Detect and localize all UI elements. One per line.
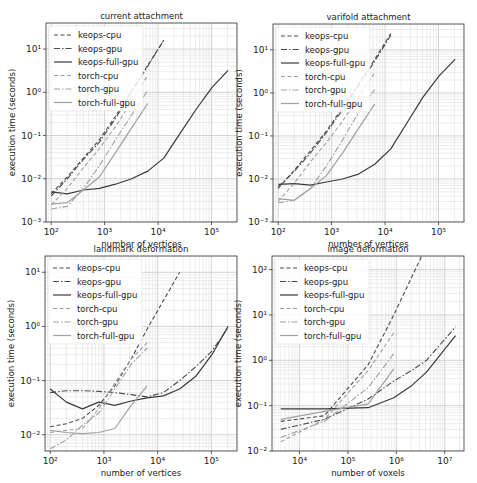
legend: keops-cpukeops-gpukeops-full-gputorch-cp… <box>49 26 143 111</box>
subplot-image-deformation: 10⁴10⁵10⁶10⁷10⁻²10⁻¹10⁰10¹10²image defor… <box>233 244 464 478</box>
legend-label: torch-full-gpu <box>77 331 134 341</box>
y-tick-label: 10¹ <box>25 267 40 277</box>
x-tick-label: 10⁴ <box>378 227 393 237</box>
y-tick-label: 10⁰ <box>252 355 267 365</box>
y-tick-label: 10⁻² <box>20 430 40 440</box>
y-axis-label: execution time (seconds) <box>7 69 17 176</box>
legend-label: torch-full-gpu <box>78 98 135 108</box>
legend: keops-cpukeops-gpukeops-full-gputorch-cp… <box>275 259 369 344</box>
y-tick-label: 10⁻² <box>248 174 268 184</box>
x-tick-label: 10³ <box>324 227 339 237</box>
subplot-title: current attachment <box>100 11 183 21</box>
legend-label: keops-cpu <box>78 30 121 40</box>
y-axis-label: execution time (seconds) <box>233 300 243 407</box>
y-tick-label: 10¹ <box>26 44 41 54</box>
x-tick-label: 10² <box>43 456 58 466</box>
x-tick-label: 10⁵ <box>340 456 355 466</box>
legend-label: torch-gpu <box>304 317 345 327</box>
y-tick-label: 10⁻³ <box>21 217 41 227</box>
figure: 10²10³10⁴10⁵10⁻³10⁻²10⁻¹10⁰10¹current at… <box>0 0 477 483</box>
x-tick-label: 10² <box>271 227 286 237</box>
x-axis-label: number of vertices <box>101 468 182 478</box>
legend-label: keops-cpu <box>305 31 348 41</box>
legend-label: keops-cpu <box>77 263 120 273</box>
subplot-varifold-attachment: 10²10³10⁴10⁵10⁻³10⁻²10⁻¹10⁰10¹varifold a… <box>234 12 464 249</box>
y-tick-label: 10⁰ <box>253 88 268 98</box>
legend-label: keops-full-gpu <box>305 58 365 68</box>
y-tick-label: 10⁰ <box>25 321 40 331</box>
x-tick-label: 10⁴ <box>150 456 165 466</box>
x-tick-label: 10⁵ <box>431 227 446 237</box>
legend-label: torch-cpu <box>305 72 345 82</box>
y-tick-label: 10⁻² <box>21 174 41 184</box>
legend: keops-cpukeops-gpukeops-full-gputorch-cp… <box>276 27 370 112</box>
legend-label: keops-full-gpu <box>304 290 364 300</box>
y-tick-label: 10¹ <box>252 310 267 320</box>
legend-label: torch-full-gpu <box>305 99 362 109</box>
y-axis-label: execution time (seconds) <box>6 300 16 407</box>
y-axis-label: execution time (seconds) <box>234 69 244 176</box>
x-tick-label: 10⁷ <box>437 456 452 466</box>
y-tick-label: 10² <box>252 265 267 275</box>
subplot-title: landmark deformation <box>94 244 189 254</box>
legend: keops-cpukeops-gpukeops-full-gputorch-cp… <box>48 259 142 344</box>
legend-label: keops-full-gpu <box>77 290 137 300</box>
legend-label: torch-gpu <box>78 84 119 94</box>
subplot-current-attachment: 10²10³10⁴10⁵10⁻³10⁻²10⁻¹10⁰10¹current at… <box>7 11 237 249</box>
x-tick-label: 10³ <box>96 456 111 466</box>
legend-label: keops-cpu <box>304 263 347 273</box>
legend-label: keops-gpu <box>78 44 122 54</box>
legend-label: torch-gpu <box>305 85 346 95</box>
x-tick-label: 10³ <box>97 227 112 237</box>
x-tick-label: 10⁵ <box>204 227 219 237</box>
subplot-landmark-deformation: 10²10³10⁴10⁵10⁻²10⁻¹10⁰10¹landmark defor… <box>6 244 237 478</box>
y-tick-label: 10⁻¹ <box>20 376 40 386</box>
legend-label: keops-full-gpu <box>78 57 138 67</box>
x-tick-label: 10² <box>44 227 59 237</box>
x-axis-label: number of voxels <box>331 468 405 478</box>
legend-label: keops-gpu <box>305 45 349 55</box>
legend-label: torch-full-gpu <box>304 331 361 341</box>
x-tick-label: 10⁶ <box>389 456 404 466</box>
x-tick-label: 10⁴ <box>151 227 166 237</box>
y-tick-label: 10⁻² <box>247 446 267 456</box>
legend-label: keops-gpu <box>304 277 348 287</box>
legend-label: torch-gpu <box>77 317 118 327</box>
y-tick-label: 10¹ <box>253 45 268 55</box>
subplot-title: varifold attachment <box>326 12 411 22</box>
legend-label: torch-cpu <box>304 304 344 314</box>
y-tick-label: 10⁻¹ <box>248 131 268 141</box>
subplot-title: image deformation <box>327 244 408 254</box>
y-tick-label: 10⁻¹ <box>247 401 267 411</box>
legend-label: keops-gpu <box>77 277 121 287</box>
legend-label: torch-cpu <box>78 71 118 81</box>
y-tick-label: 10⁻¹ <box>21 131 41 141</box>
x-tick-label: 10⁵ <box>204 456 219 466</box>
y-tick-label: 10⁰ <box>26 87 41 97</box>
legend-label: torch-cpu <box>77 304 117 314</box>
x-tick-label: 10⁴ <box>292 456 307 466</box>
y-tick-label: 10⁻³ <box>248 217 268 227</box>
